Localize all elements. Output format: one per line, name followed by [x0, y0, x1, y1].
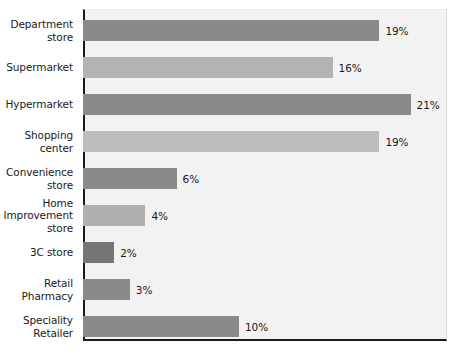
- bar-value-label: 2%: [120, 247, 136, 259]
- bar-value-label: 19%: [385, 25, 408, 37]
- bar-department-store[interactable]: [83, 20, 379, 41]
- bar-track: 6%: [83, 160, 460, 197]
- chart-row: Department store 19%: [0, 12, 460, 49]
- bar-value-label: 3%: [136, 284, 152, 296]
- category-label: Retail Pharmacy: [0, 277, 78, 302]
- bar-supermarket[interactable]: [83, 57, 333, 78]
- category-label: Shopping center: [0, 129, 78, 154]
- chart-row: Retail Pharmacy 3%: [0, 271, 460, 308]
- category-label: Department store: [0, 18, 78, 43]
- bar-3c-store[interactable]: [83, 242, 114, 263]
- category-label: Home Improvement store: [0, 197, 78, 234]
- bar-value-label: 16%: [339, 62, 362, 74]
- bar-value-label: 10%: [245, 321, 268, 333]
- bar-value-label: 4%: [151, 210, 167, 222]
- bar-track: 3%: [83, 271, 460, 308]
- category-label: Speciality Retailer: [0, 314, 78, 339]
- bar-retail-pharmacy[interactable]: [83, 279, 130, 300]
- chart-row: Speciality Retailer 10%: [0, 308, 460, 345]
- category-label: Hypermarket: [0, 98, 78, 110]
- chart-row: Convenience store 6%: [0, 160, 460, 197]
- chart-row: Hypermarket 21%: [0, 86, 460, 123]
- bar-track: 19%: [83, 12, 460, 49]
- category-label: 3C store: [0, 246, 78, 258]
- chart-row: Shopping center 19%: [0, 123, 460, 160]
- bar-track: 4%: [83, 197, 460, 234]
- chart-row: Supermarket 16%: [0, 49, 460, 86]
- bar-track: 10%: [83, 308, 460, 345]
- bar-speciality-retailer[interactable]: [83, 316, 239, 337]
- bar-hypermarket[interactable]: [83, 94, 411, 115]
- category-label: Supermarket: [0, 61, 78, 73]
- bar-convenience-store[interactable]: [83, 168, 177, 189]
- bar-value-label: 21%: [417, 99, 440, 111]
- chart-row: 3C store 2%: [0, 234, 460, 271]
- bar-track: 2%: [83, 234, 460, 271]
- bar-track: 16%: [83, 49, 460, 86]
- bar-value-label: 19%: [385, 136, 408, 148]
- bar-chart: Department store 19% Supermarket 16% Hyp…: [0, 0, 460, 359]
- bar-track: 19%: [83, 123, 460, 160]
- bar-track: 21%: [83, 86, 460, 123]
- bar-value-label: 6%: [183, 173, 199, 185]
- chart-row: Home Improvement store 4%: [0, 197, 460, 234]
- bar-home-improvement-store[interactable]: [83, 205, 145, 226]
- category-label: Convenience store: [0, 166, 78, 191]
- bar-shopping-center[interactable]: [83, 131, 379, 152]
